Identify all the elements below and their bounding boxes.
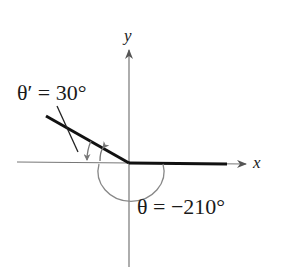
initial-side (129, 163, 227, 164)
y-axis-label: y (124, 26, 132, 46)
angle-label: θ = −210° (137, 194, 225, 220)
reference-angle-label: θ′ = 30° (17, 80, 87, 106)
angle-diagram (0, 0, 282, 277)
reference-angle-pointer (57, 106, 78, 152)
reference-angle-arc-2 (100, 148, 103, 161)
reference-angle-arc-1 (87, 141, 91, 160)
x-axis-label: x (253, 153, 261, 173)
